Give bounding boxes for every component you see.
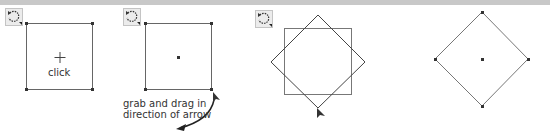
- rotate-tool-icon: [255, 10, 273, 28]
- panel-4: [434, 11, 530, 108]
- instruction-line-1: grab and drag in: [123, 98, 206, 109]
- cursor-arrow-icon: [317, 108, 325, 118]
- cursor-arrow-icon: [213, 92, 220, 102]
- instruction-line-2: direction of arrow: [123, 109, 211, 120]
- rotation-diagram: [0, 0, 550, 133]
- panel-1: [25, 22, 94, 91]
- panel-3: [271, 15, 365, 118]
- crosshair-icon: [55, 52, 66, 63]
- click-label: click: [48, 67, 70, 78]
- rotate-tool-icon: [123, 8, 141, 26]
- rotate-tool-icon: [5, 8, 23, 26]
